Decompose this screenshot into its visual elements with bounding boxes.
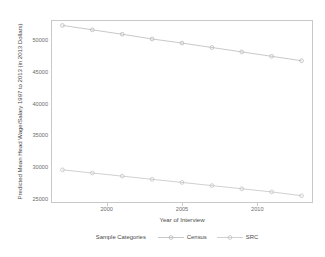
x-tick-mark [257,203,258,206]
x-tick-mark [182,203,183,206]
legend-entry-census[interactable]: Census [158,232,207,242]
x-axis-title: Year of Interview [51,216,313,224]
legend-line-marker-icon [158,234,184,241]
x-tick-mark [107,203,108,206]
chart-figure: Predicted Mean Head Wage/Salary 1997 to … [0,0,325,257]
legend-label: SRC [246,232,258,242]
legend-line-marker-icon [217,234,243,241]
x-tick-label: 2000 [87,206,127,213]
legend-label: Census [187,232,207,242]
x-tick-label: 2010 [237,206,277,213]
chart-legend: Sample Categories CensusSRC [51,231,313,243]
x-tick-label: 2005 [162,206,202,213]
legend-entry-src[interactable]: SRC [217,232,258,242]
legend-title: Sample Categories [96,232,146,242]
